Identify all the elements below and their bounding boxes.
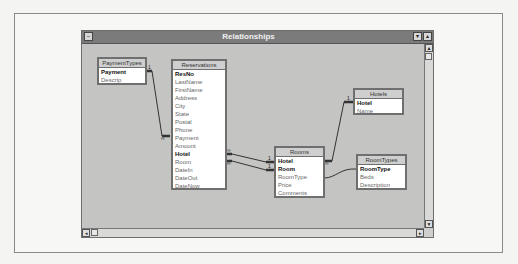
field-room[interactable]: Room (173, 158, 225, 166)
field-comments[interactable]: Comments (276, 189, 323, 197)
field-address[interactable]: Address (173, 94, 225, 102)
arrow-right-icon: ▸ (419, 230, 422, 236)
field-firstname[interactable]: FirstName (173, 86, 225, 94)
scroll-corner (424, 228, 433, 237)
table-title[interactable]: Rooms (276, 148, 323, 157)
scroll-down-button[interactable]: ▼ (425, 220, 433, 228)
title-bar[interactable]: − Relationships ▾ ▴ (82, 31, 433, 44)
one-label: 1 (268, 163, 271, 169)
many-label: ∞ (325, 160, 329, 166)
field-name[interactable]: Name (355, 107, 402, 115)
scroll-left-button[interactable]: ◂ (82, 229, 90, 237)
table-title[interactable]: Hotels (355, 90, 402, 99)
relationship-line-payment (146, 71, 170, 136)
many-label: ∞ (227, 147, 231, 153)
minimize-icon: ▾ (416, 33, 419, 39)
many-label: ∞ (161, 135, 165, 141)
minimize-button[interactable]: ▾ (413, 32, 422, 41)
arrow-left-icon: ◂ (85, 230, 88, 236)
arrow-up-icon: ▲ (427, 45, 432, 51)
scroll-right-button[interactable]: ▸ (416, 229, 424, 237)
scroll-up-button[interactable]: ▲ (425, 44, 433, 52)
table-reservations[interactable]: Reservations ResNo LastName FirstName Ad… (171, 59, 227, 190)
field-description[interactable]: Description (358, 181, 405, 189)
table-hotels[interactable]: Hotels Hotel Name (353, 88, 404, 115)
table-title[interactable]: RoomTypes (358, 156, 405, 165)
field-resno[interactable]: ResNo (173, 70, 225, 78)
field-postal[interactable]: Postal (173, 118, 225, 126)
arrow-down-icon: ▼ (427, 221, 432, 227)
table-paymenttypes[interactable]: PaymentTypes Payment Descrip (97, 57, 147, 85)
vertical-scrollbar[interactable]: ▲ ▼ (424, 44, 433, 228)
field-lastname[interactable]: LastName (173, 78, 225, 86)
field-hotel[interactable]: Hotel (173, 150, 225, 158)
field-phone[interactable]: Phone (173, 126, 225, 134)
table-title[interactable]: PaymentTypes (99, 59, 145, 68)
relationship-line-hotels (324, 102, 353, 161)
maximize-button[interactable]: ▴ (423, 32, 432, 41)
table-roomtypes[interactable]: RoomTypes RoomType Beds Description (356, 154, 407, 190)
field-city[interactable]: City (173, 102, 225, 110)
table-title[interactable]: Reservations (173, 61, 225, 70)
relationships-window: − Relationships ▾ ▴ (81, 30, 434, 238)
field-roomtype[interactable]: RoomType (358, 165, 405, 173)
field-datenow[interactable]: DateNow (173, 182, 225, 190)
field-beds[interactable]: Beds (358, 173, 405, 181)
field-roomtype[interactable]: RoomType (276, 173, 323, 181)
vertical-scroll-thumb[interactable] (425, 53, 432, 60)
field-room[interactable]: Room (276, 165, 323, 173)
horizontal-scroll-thumb[interactable] (91, 229, 98, 236)
field-payment[interactable]: Payment (99, 68, 145, 76)
many-label: ∞ (227, 160, 231, 166)
field-state[interactable]: State (173, 110, 225, 118)
field-price[interactable]: Price (276, 181, 323, 189)
field-payment[interactable]: Payment (173, 134, 225, 142)
relationships-canvas[interactable]: 1 ∞ ∞ ∞ 1 1 ∞ 1 PaymentTypes Payment Des… (82, 44, 424, 228)
relationship-line-roomtype (324, 169, 356, 178)
field-amount[interactable]: Amount (173, 142, 225, 150)
one-label: 1 (148, 64, 151, 70)
horizontal-scrollbar[interactable]: ◂ ▸ (82, 228, 424, 237)
field-datein[interactable]: DateIn (173, 166, 225, 174)
table-rooms[interactable]: Rooms Hotel Room RoomType Price Comments (274, 146, 325, 198)
field-hotel[interactable]: Hotel (355, 99, 402, 107)
window-title: Relationships (82, 31, 415, 43)
one-label: 1 (347, 95, 350, 101)
one-label: 1 (268, 155, 271, 161)
field-descrip[interactable]: Descrip (99, 76, 145, 84)
maximize-icon: ▴ (426, 33, 429, 39)
field-hotel[interactable]: Hotel (276, 157, 323, 165)
field-dateout[interactable]: DateOut (173, 174, 225, 182)
